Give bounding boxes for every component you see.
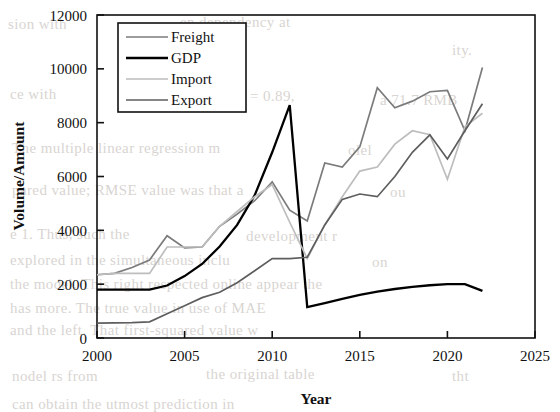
x-tick-label: 2010 [257,348,287,364]
legend-label-import: Import [171,71,213,87]
x-tick-label: 2020 [432,348,462,364]
y-tick-label: 12000 [50,8,88,24]
x-tick-label: 2015 [345,348,375,364]
x-tick-label: 2025 [520,348,550,364]
x-axis-tick-labels: 200020052010201520202025 [82,348,550,364]
x-tick-label: 2000 [82,348,112,364]
y-tick-label: 4000 [57,223,87,239]
series-line-export [97,104,482,323]
y-tick-label: 2000 [57,277,87,293]
legend: FreightGDPImportExport [118,23,246,112]
y-axis-title: Volume/Amount [10,121,27,231]
x-axis-ticks [97,331,535,338]
legend-label-export: Export [171,92,213,108]
y-axis-tick-labels: 020004000600080001000012000 [50,8,88,347]
x-axis-title: Year [301,390,332,407]
x-tick-label: 2005 [170,348,200,364]
series-line-gdp [97,105,482,307]
legend-label-gdp: GDP [171,50,201,66]
y-tick-label: 6000 [57,169,87,185]
series-line-import [97,113,482,275]
line-chart: 020004000600080001000012000 200020052010… [0,0,560,412]
y-tick-label: 8000 [57,115,87,131]
legend-label-freight: Freight [171,29,215,45]
y-tick-label: 0 [80,331,88,347]
chart-figure: sion withen dependency atity.ce with= 0.… [0,0,560,412]
y-tick-label: 10000 [50,61,88,77]
